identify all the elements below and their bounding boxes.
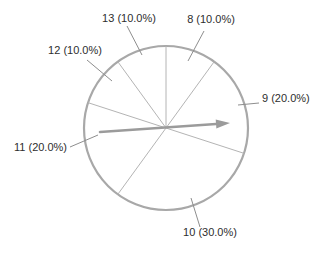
slice-label-13: 13 (10.0%) [102,12,156,24]
leader-line-13 [127,26,142,55]
slice-boundary-9 [166,62,214,128]
leader-line-9 [238,103,259,105]
slice-boundary-12 [88,103,166,128]
spinner-arrow-head [216,119,230,128]
slice-label-8: 8 (10.0%) [187,13,235,25]
slice-label-11: 11 (20.0%) [14,141,67,153]
slice-boundary-11 [118,128,166,194]
slice-label-12: 12 (10.0%) [48,44,102,56]
slice-label-9: 9 (20.0%) [262,92,310,104]
pie-chart: 8 (10.0%) 9 (20.0%) 10 (30.0%) 11 (20.0%… [0,0,325,254]
leader-line-8 [188,31,204,61]
slice-boundary-10 [166,128,244,153]
slice-boundary-13 [118,62,166,128]
slice-label-10: 10 (30.0%) [183,226,237,238]
pie-chart-figure: 8 (10.0%) 9 (20.0%) 10 (30.0%) 11 (20.0%… [0,0,325,254]
